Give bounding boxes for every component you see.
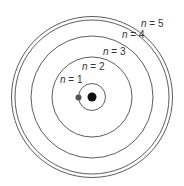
label-n1: n = 1 — [60, 74, 83, 85]
label-n2: n = 2 — [82, 61, 105, 72]
nucleus — [88, 93, 97, 102]
label-n4: n = 4 — [122, 29, 145, 40]
label-n5: n = 5 — [141, 18, 164, 29]
bohr-diagram: n = 1 n = 2 n = 3 n = 4 n = 5 — [0, 0, 184, 186]
electron — [76, 95, 82, 101]
label-n3: n = 3 — [103, 46, 126, 57]
